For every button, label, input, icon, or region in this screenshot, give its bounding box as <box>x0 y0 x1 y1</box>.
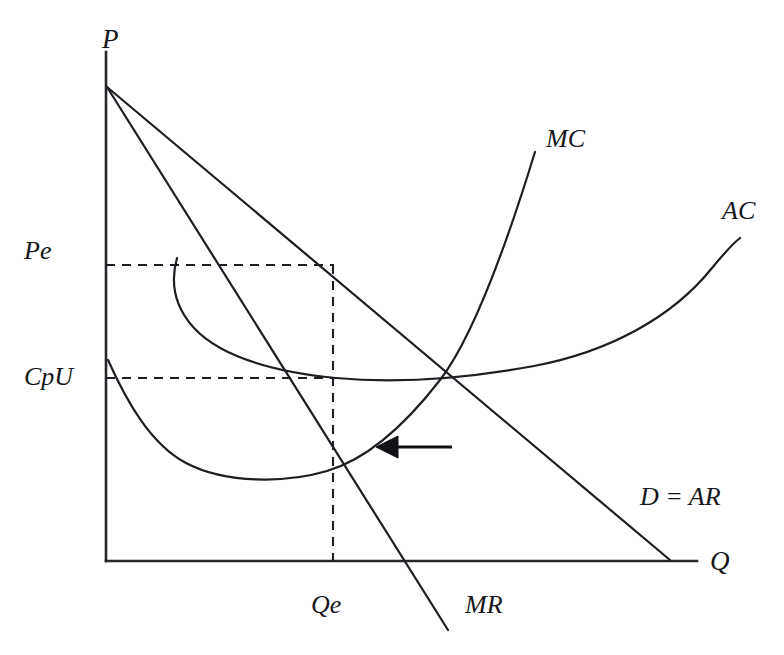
annotation-arrow-head <box>376 436 398 458</box>
demand-average-revenue-label: D = AR <box>640 484 721 510</box>
marginal-cost-label: MC <box>546 126 585 152</box>
y-axis-label: P <box>102 26 119 53</box>
marginal-revenue-curve <box>107 87 448 630</box>
marginal-revenue-label: MR <box>465 592 503 618</box>
economics-diagram: P Q Pe CpU Qe MC AC D = AR MR <box>0 0 784 655</box>
cost-per-unit-label: CpU <box>24 364 73 390</box>
quantity-equilibrium-label: Qe <box>311 592 341 618</box>
average-cost-label: AC <box>722 198 755 224</box>
average-cost-curve <box>174 238 740 380</box>
price-equilibrium-label: Pe <box>24 238 51 264</box>
diagram-canvas <box>0 0 784 655</box>
x-axis-label: Q <box>710 548 730 575</box>
